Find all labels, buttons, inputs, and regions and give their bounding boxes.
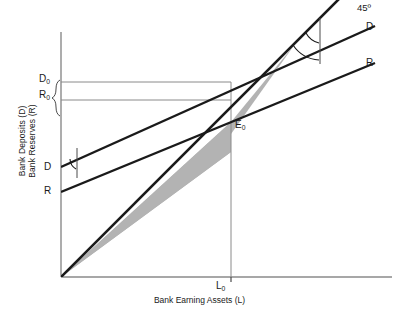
upper-right-angle-arc bbox=[306, 33, 319, 43]
y-axis-title-line1: Bank Deposits (D) bbox=[18, 66, 27, 216]
y-axis-title: Bank Deposits (D) Bank Reserves (R) bbox=[18, 66, 36, 216]
d0-r0-brace bbox=[52, 80, 60, 116]
e0-text: E bbox=[235, 119, 242, 130]
r0-tick-label: R0 bbox=[39, 90, 50, 102]
equilibrium-point-label: E0 bbox=[235, 120, 245, 132]
reserve-line-label-right: R bbox=[366, 58, 373, 68]
e0-subscript: 0 bbox=[242, 124, 246, 131]
plot-canvas bbox=[0, 0, 399, 320]
l0-tick-label: L0 bbox=[216, 281, 225, 293]
forty-five-degree-label: 45º bbox=[357, 3, 371, 13]
reserve-line-label-left: R bbox=[44, 186, 51, 196]
deposit-line-label-right: D bbox=[366, 22, 373, 32]
economics-diagram: Bank Deposits (D) Bank Reserves (R) Bank… bbox=[0, 0, 399, 320]
curve-45-degree-line bbox=[61, 0, 352, 277]
y-axis-title-line2: Bank Reserves (R) bbox=[28, 66, 37, 216]
d0-subscript: 0 bbox=[46, 78, 50, 85]
r0-subscript: 0 bbox=[46, 94, 50, 101]
deposit-line-label-left: D bbox=[44, 162, 51, 172]
x-axis-title: Bank Earning Assets (L) bbox=[0, 296, 399, 305]
l0-subscript: 0 bbox=[222, 285, 226, 292]
region-between-45-line-and-R-line-lower bbox=[61, 122, 231, 277]
d0-tick-label: D0 bbox=[39, 74, 50, 86]
